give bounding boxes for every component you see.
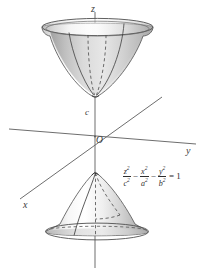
c-intercept-label: c bbox=[85, 108, 89, 117]
equation-term-y-numerator-exponent: 2 bbox=[163, 165, 166, 171]
equation-term-z-numerator: z2 bbox=[123, 166, 131, 176]
equation-term-y-denominator: b2 bbox=[158, 176, 167, 187]
equation-term-z-denominator-exponent: 2 bbox=[127, 177, 130, 183]
lower-nappe-underside bbox=[46, 229, 148, 236]
z-axis-label: z bbox=[91, 4, 95, 14]
equation-right-hand-side: = 1 bbox=[169, 172, 181, 181]
surface-equation: z2 c2 − x2 a2 − y2 b2 = 1 bbox=[122, 166, 181, 187]
y-axis-label: y bbox=[186, 146, 190, 156]
origin-label: O bbox=[96, 136, 103, 146]
equation-term-x-numerator-exponent: 2 bbox=[145, 165, 148, 171]
equation-term-x: x2 a2 bbox=[140, 166, 149, 187]
equation-term-y-numerator: y2 bbox=[158, 166, 166, 176]
equation-term-x-numerator: x2 bbox=[140, 166, 148, 176]
upper-nappe bbox=[42, 18, 153, 97]
equation-operator-2: − bbox=[151, 172, 156, 181]
hyperboloid-figure: z y x O c z2 c2 − x2 a2 − y2 b2 = 1 bbox=[0, 0, 199, 277]
equation-term-x-denominator: a2 bbox=[140, 176, 149, 187]
equation-term-x-denominator-exponent: 2 bbox=[145, 177, 148, 183]
equation-term-z-numerator-exponent: 2 bbox=[127, 165, 130, 171]
equation-term-y: y2 b2 bbox=[158, 166, 167, 187]
x-axis-label: x bbox=[23, 200, 27, 210]
equation-term-z-denominator: c2 bbox=[123, 176, 131, 187]
equation-term-z: z2 c2 bbox=[123, 166, 131, 187]
equation-operator-1: − bbox=[133, 172, 138, 181]
equation-term-y-denominator-exponent: 2 bbox=[163, 177, 166, 183]
